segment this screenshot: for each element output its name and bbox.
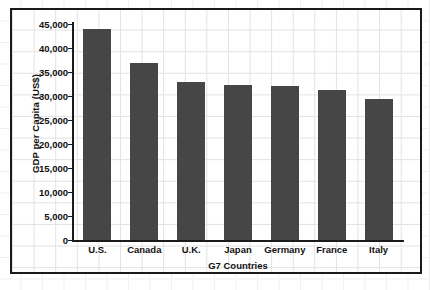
y-axis-tick-mark bbox=[68, 240, 72, 241]
y-axis-tick-label: 30,000 bbox=[8, 91, 68, 102]
y-axis-tick-mark bbox=[68, 216, 72, 217]
bar-slot bbox=[168, 24, 215, 240]
y-axis-tick-label: 40,000 bbox=[8, 43, 68, 54]
y-axis-tick-label: 0 bbox=[8, 235, 68, 246]
x-axis-line bbox=[72, 240, 404, 242]
bar-slot bbox=[121, 24, 168, 240]
y-axis-tick-mark bbox=[68, 192, 72, 193]
bar-slot bbox=[215, 24, 262, 240]
bar-japan[interactable] bbox=[224, 85, 252, 240]
bar-slot bbox=[355, 24, 402, 240]
y-axis-tick-label: 45,000 bbox=[8, 19, 68, 30]
y-axis-tick-mark bbox=[68, 120, 72, 121]
bar-slot bbox=[261, 24, 308, 240]
bar-germany[interactable] bbox=[271, 86, 299, 240]
x-axis-tick-label: U.S. bbox=[74, 244, 121, 255]
x-axis-title: G7 Countries bbox=[74, 260, 402, 271]
plot-area: 05,00010,00015,00020,00025,00030,00035,0… bbox=[72, 24, 402, 240]
y-axis-tick-mark bbox=[68, 144, 72, 145]
bar-italy[interactable] bbox=[365, 99, 393, 240]
bar-france[interactable] bbox=[318, 90, 346, 240]
y-axis-tick-mark bbox=[68, 24, 72, 25]
y-axis-tick-mark bbox=[68, 72, 72, 73]
y-axis-tick-mark bbox=[68, 96, 72, 97]
bar-canada[interactable] bbox=[130, 63, 158, 240]
y-axis-tick-label: 5,000 bbox=[8, 211, 68, 222]
x-axis-tick-label: Canada bbox=[121, 244, 168, 255]
x-axis-tick-label: Germany bbox=[261, 244, 308, 255]
bar-slot bbox=[74, 24, 121, 240]
y-axis-tick-label: 25,000 bbox=[8, 115, 68, 126]
x-axis-tick-label: Italy bbox=[355, 244, 402, 255]
y-axis-tick-mark bbox=[68, 48, 72, 49]
bar-u-s[interactable] bbox=[83, 29, 111, 240]
y-axis-tick-mark bbox=[68, 168, 72, 169]
y-axis-tick-label: 15,000 bbox=[8, 163, 68, 174]
y-axis-tick-label: 35,000 bbox=[8, 67, 68, 78]
x-axis-tick-label: U.K. bbox=[168, 244, 215, 255]
y-axis-tick-label: 10,000 bbox=[8, 187, 68, 198]
x-axis-tick-labels: U.S.CanadaU.K.JapanGermanyFranceItaly bbox=[74, 244, 402, 255]
chart-frame: GDP per Capita (US$) 05,00010,00015,0002… bbox=[10, 8, 422, 274]
x-axis-tick-label: Japan bbox=[215, 244, 262, 255]
bar-series bbox=[74, 24, 402, 240]
bar-slot bbox=[308, 24, 355, 240]
x-axis-tick-label: France bbox=[308, 244, 355, 255]
bar-u-k[interactable] bbox=[177, 82, 205, 240]
y-axis-tick-label: 20,000 bbox=[8, 139, 68, 150]
